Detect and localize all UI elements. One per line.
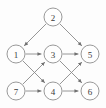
node-label-3: 3 (51, 50, 56, 60)
node-label-1: 1 (14, 50, 19, 60)
edge-4-to-5 (60, 62, 82, 84)
edge-2-to-1 (24, 24, 46, 46)
edge-7-to-3 (23, 62, 45, 84)
node-label-6: 6 (88, 87, 93, 97)
edge-1-to-4 (23, 61, 45, 83)
node-label-2: 2 (51, 13, 56, 23)
node-6[interactable]: 6 (81, 82, 99, 100)
node-7[interactable]: 7 (7, 82, 25, 100)
node-label-4: 4 (51, 87, 56, 97)
node-label-5: 5 (88, 50, 93, 60)
graph-canvas: 1234567 (0, 0, 106, 108)
edge-3-to-6 (60, 61, 82, 83)
node-label-7: 7 (14, 87, 19, 97)
edge-2-to-5 (60, 24, 82, 46)
graph-diagram: 1234567 (0, 0, 106, 108)
node-2[interactable]: 2 (44, 8, 62, 26)
node-4[interactable]: 4 (44, 82, 62, 100)
node-layer: 1234567 (7, 8, 99, 100)
node-5[interactable]: 5 (81, 45, 99, 63)
node-3[interactable]: 3 (44, 45, 62, 63)
node-1[interactable]: 1 (7, 45, 25, 63)
